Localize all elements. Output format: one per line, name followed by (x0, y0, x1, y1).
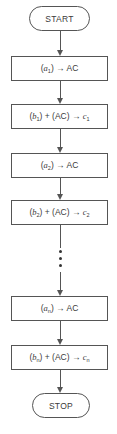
stop-terminal: STOP (32, 393, 90, 418)
process-step-load-an: (an) → AC (11, 296, 108, 321)
stop-label: STOP (49, 401, 73, 411)
ellipsis-dot (59, 264, 62, 267)
step-label: (bn) + (AC) → cn (29, 352, 89, 363)
connector-step4-ellipsis (60, 225, 61, 248)
process-step-load-a2: (a2) → AC (11, 153, 108, 178)
step-label: (b2) + (AC) → c2 (29, 207, 89, 218)
step-label: (an) → AC (41, 303, 79, 314)
connector-step2-step3 (60, 129, 61, 147)
connector-ellipsis-step5 (60, 272, 61, 290)
connector-step3-step4 (60, 178, 61, 194)
connector-step6-stop (60, 370, 61, 387)
connector-step1-step2 (60, 81, 61, 98)
step-label: (a1) → AC (41, 63, 79, 74)
start-label: START (45, 14, 74, 24)
ellipsis-dot (59, 250, 62, 253)
process-step-add-b2: (b2) + (AC) → c2 (11, 200, 108, 225)
process-step-add-b1: (b1) + (AC) → c1 (11, 104, 108, 129)
process-step-add-bn: (bn) + (AC) → cn (11, 345, 108, 370)
connector-start-step1 (60, 30, 61, 50)
ellipsis-dot (59, 257, 62, 260)
step-label: (a2) → AC (41, 160, 79, 171)
process-step-load-a1: (a1) → AC (11, 56, 108, 81)
connector-step5-step6 (60, 321, 61, 339)
start-terminal: START (29, 6, 90, 31)
step-label: (b1) + (AC) → c1 (29, 111, 89, 122)
